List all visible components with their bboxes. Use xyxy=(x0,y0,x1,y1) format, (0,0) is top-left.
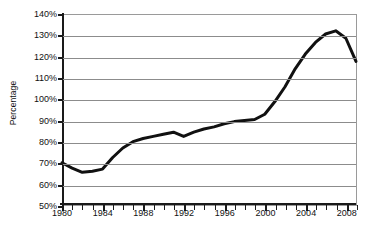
gridline xyxy=(62,122,356,123)
gridline xyxy=(62,36,356,37)
gridline xyxy=(62,100,356,101)
y-axis-tick xyxy=(58,35,63,37)
y-axis-tick xyxy=(58,99,63,101)
y-axis-title-label: Percentage xyxy=(8,81,18,125)
x-axis-tick-label: 1980 xyxy=(52,208,72,218)
x-axis-tick-label: 1996 xyxy=(215,208,235,218)
x-axis-tick-label: 2004 xyxy=(296,208,316,218)
y-axis-tick xyxy=(58,163,63,165)
y-axis-tick xyxy=(58,78,63,80)
x-axis-tick-label: 1984 xyxy=(93,208,113,218)
x-axis-tick-label: 1988 xyxy=(133,208,153,218)
data-series-line xyxy=(62,15,356,205)
y-axis-tick xyxy=(58,14,63,16)
x-axis-tick-label: 2000 xyxy=(255,208,275,218)
y-axis-tick xyxy=(58,121,63,123)
y-axis-tick-label: 140% xyxy=(34,9,57,19)
y-axis-tick-labels: 140%130%120%110%100%90%80%70%60%50% xyxy=(18,14,59,206)
y-axis-tick-label: 120% xyxy=(34,52,57,62)
gridline xyxy=(62,79,356,80)
y-axis-tick xyxy=(58,142,63,144)
y-axis-tick-label: 130% xyxy=(34,30,57,40)
y-axis-tick-label: 70% xyxy=(39,158,57,168)
y-axis-tick-label: 110% xyxy=(35,73,57,83)
y-axis-tick-label: 80% xyxy=(39,137,57,147)
line-chart: Percentage 140%130%120%110%100%90%80%70%… xyxy=(0,0,381,246)
x-axis-tick-minor xyxy=(357,205,358,210)
y-axis-tick xyxy=(58,57,63,59)
gridline xyxy=(62,58,356,59)
y-axis-tick-label: 60% xyxy=(39,180,57,190)
y-axis-tick xyxy=(58,185,63,187)
gridline xyxy=(62,164,356,165)
x-axis-tick-label: 2008 xyxy=(337,208,357,218)
x-axis-tick-labels: 19801984198819921996200020042008 xyxy=(62,208,357,224)
y-axis-tick-label: 90% xyxy=(39,116,57,126)
gridline xyxy=(62,143,356,144)
plot-area xyxy=(62,14,357,206)
x-axis-tick-label: 1992 xyxy=(174,208,194,218)
gridline xyxy=(62,186,356,187)
y-axis-tick-label: 100% xyxy=(34,94,57,104)
